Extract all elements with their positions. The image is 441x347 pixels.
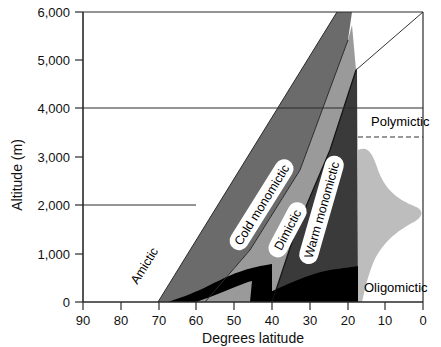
- x-tick-marks: [83, 302, 423, 310]
- x-tick-label-80: 80: [114, 313, 128, 328]
- x-tick-label-90: 90: [76, 313, 90, 328]
- y-tick-label-0: 0: [63, 295, 70, 310]
- y-tick-label-1000: 1,000: [37, 247, 70, 262]
- y-tick-marks: [75, 12, 83, 302]
- x-tick-label-0: 0: [419, 313, 426, 328]
- x-tick-label-70: 70: [152, 313, 166, 328]
- x-tick-label-60: 60: [189, 313, 203, 328]
- label-polymictic: Polymictic: [371, 114, 430, 129]
- x-tick-label-10: 10: [378, 313, 392, 328]
- label-oligomictic: Oligomictic: [364, 280, 428, 295]
- x-tick-label-50: 50: [227, 313, 241, 328]
- y-tick-label-3000: 3,000: [37, 150, 70, 165]
- y-tick-label-5000: 5,000: [37, 53, 70, 68]
- chart-container: 6,000 5,000 4,000 3,000 2,000 1,000 0 90…: [0, 0, 441, 347]
- mixing-regime-chart: 6,000 5,000 4,000 3,000 2,000 1,000 0 90…: [0, 0, 441, 347]
- y-axis-title: Altitude (m): [9, 139, 25, 211]
- x-tick-label-40: 40: [265, 313, 279, 328]
- x-axis-title: Degrees latitude: [202, 330, 304, 346]
- x-tick-label-30: 30: [303, 313, 317, 328]
- y-tick-label-4000: 4,000: [37, 101, 70, 116]
- y-tick-label-2000: 2,000: [37, 198, 70, 213]
- x-tick-label-20: 20: [341, 313, 355, 328]
- y-tick-label-6000: 6,000: [37, 5, 70, 20]
